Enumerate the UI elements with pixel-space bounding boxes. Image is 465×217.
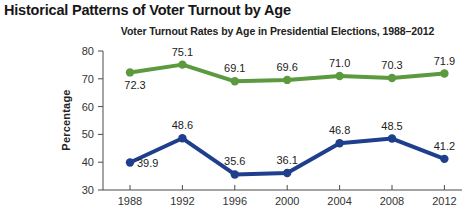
point-upper-turnout-2008 — [388, 74, 396, 82]
y-tick-label: 60 — [82, 101, 94, 113]
label-upper-turnout-1988: 72.3 — [124, 79, 145, 91]
label-upper-turnout-1992: 75.1 — [172, 46, 193, 58]
label-lower-turnout-1992: 48.6 — [172, 119, 193, 131]
label-upper-turnout-2008: 70.3 — [381, 59, 402, 71]
point-upper-turnout-1996 — [231, 77, 239, 85]
x-tick-label: 2008 — [380, 195, 404, 207]
y-tick-label: 50 — [82, 128, 94, 140]
point-upper-turnout-1992 — [178, 60, 186, 68]
point-lower-turnout-2000 — [283, 169, 291, 177]
point-lower-turnout-1996 — [231, 170, 239, 178]
x-tick-label: 2012 — [432, 195, 456, 207]
x-tick-label: 1996 — [223, 195, 247, 207]
label-upper-turnout-1996: 69.1 — [224, 62, 245, 74]
point-lower-turnout-2004 — [335, 139, 343, 147]
point-lower-turnout-1992 — [178, 134, 186, 142]
point-lower-turnout-2008 — [388, 134, 396, 142]
label-upper-turnout-2000: 69.6 — [276, 61, 297, 73]
point-upper-turnout-2004 — [335, 72, 343, 80]
chart-subtitle: Voter Turnout Rates by Age in Presidenti… — [95, 25, 460, 37]
label-lower-turnout-1996: 35.6 — [224, 155, 245, 167]
y-tick-label: 30 — [82, 184, 94, 196]
point-upper-turnout-1988 — [126, 68, 134, 76]
figure: Historical Patterns of Voter Turnout by … — [0, 0, 465, 217]
label-lower-turnout-1988: 39.9 — [137, 157, 158, 169]
label-lower-turnout-2000: 36.1 — [276, 154, 297, 166]
x-tick-label: 2004 — [327, 195, 351, 207]
y-axis-title: Percentage — [60, 89, 72, 150]
y-tick-label: 70 — [82, 73, 94, 85]
point-upper-turnout-2012 — [440, 69, 448, 77]
point-lower-turnout-2012 — [440, 155, 448, 163]
figure-title: Historical Patterns of Voter Turnout by … — [4, 2, 291, 18]
point-lower-turnout-1988 — [126, 158, 134, 166]
x-tick-label: 1992 — [170, 195, 194, 207]
y-tick-label: 80 — [82, 45, 94, 57]
point-upper-turnout-2000 — [283, 76, 291, 84]
y-tick-label: 40 — [82, 156, 94, 168]
label-lower-turnout-2004: 46.8 — [329, 124, 350, 136]
label-upper-turnout-2012: 71.9 — [434, 55, 455, 67]
line-chart: 3040506070801988199219962000200420082012… — [0, 42, 465, 217]
x-tick-label: 2000 — [275, 195, 299, 207]
x-tick-label: 1988 — [118, 195, 142, 207]
label-lower-turnout-2012: 41.2 — [434, 140, 455, 152]
label-lower-turnout-2008: 48.5 — [381, 120, 402, 132]
label-upper-turnout-2004: 71.0 — [329, 57, 350, 69]
